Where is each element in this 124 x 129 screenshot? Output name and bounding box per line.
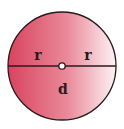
circle-diagram: r r d [0,0,124,129]
radius-label-left: r [34,47,42,63]
radius-label-right: r [84,47,92,63]
center-point [59,63,65,69]
diameter-label: d [58,81,68,97]
